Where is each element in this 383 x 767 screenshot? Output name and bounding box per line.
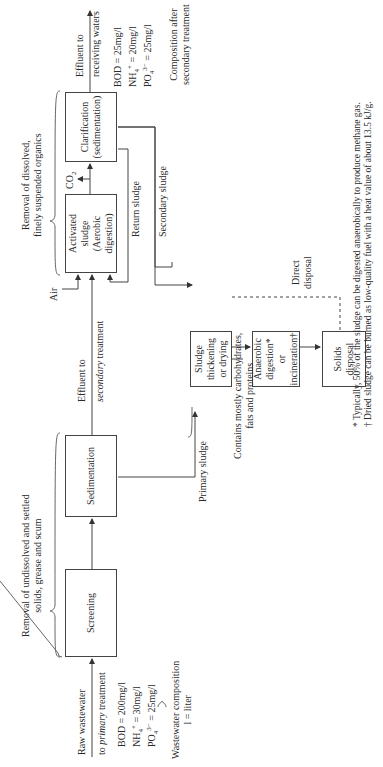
secondary-header-line1: Removal of dissolved, [20, 133, 32, 237]
sludge-note-line1: Contains mostly carbohydrates, [232, 333, 244, 459]
raw-wastewater-label: Raw wastewater [76, 689, 88, 755]
receiving-line1: Effluent to [74, 11, 86, 77]
co2-main: CO [64, 175, 75, 189]
anaerobic-line3: or incineration† [276, 332, 300, 386]
primary-sludge-label: Primary sludge [197, 441, 209, 502]
thickening-line2: thickening [205, 338, 217, 380]
secondary-header-line2: finely suspended organics [32, 133, 44, 237]
t-po4-value: = 25mg/l [142, 24, 153, 63]
footnote-dagger: † Dried sludge can be burned as low-qual… [363, 101, 374, 427]
treated-caption-line1: Composition after [168, 4, 180, 85]
treated-po4: PO43− = 25mg/l [142, 24, 154, 87]
co2-subscript: 2 [70, 172, 78, 176]
raw-nh4: NH4+ = 30mg/l [131, 682, 143, 747]
sedimentation-box: Sedimentation [65, 435, 117, 517]
return-sludge-label: Return sludge [130, 181, 142, 237]
t-nh4-value: = 20mg/l [127, 26, 138, 65]
t-po4-sup: 3− [141, 63, 149, 70]
po4-sup: 3− [145, 723, 153, 730]
raw-caption-line1: Wastewater composition [170, 661, 182, 759]
screening-box: Screening [65, 569, 117, 657]
clarification-line1: Clarification [79, 96, 91, 159]
sedimentation-label: Sedimentation [85, 447, 97, 505]
activated-sludge-line3: (Aerobic digestion) [91, 195, 115, 272]
raw-po4: PO43− = 25mg/l [146, 682, 158, 747]
treated-bod: BOD = 25mg/l [112, 24, 124, 87]
raw-caption-line2: l = liter [182, 661, 194, 759]
thickening-line3: or drying [217, 338, 229, 380]
clarification-line2: (sedimentation) [91, 96, 103, 159]
co2-label: CO2 [64, 172, 76, 189]
treated-composition-caption: Composition after secondary treatment [168, 4, 192, 85]
to-prefix: to [96, 745, 107, 755]
sludge-note-line2: fats and proteins [244, 333, 256, 459]
po4-main: PO [146, 734, 157, 747]
sludge-composition-note: Contains mostly carbohydrates, fats and … [232, 333, 256, 459]
t-nh4-main: NH [127, 73, 138, 87]
thickening-line1: Sludge [193, 338, 205, 380]
anaerobic-digestion-box: Anaerobic digestion* or incineration† [252, 331, 300, 387]
secondary-stage-header: Removal of dissolved, finely suspended o… [20, 133, 44, 237]
treated-nh4: NH4+ = 20mg/l [127, 24, 139, 87]
solids-line1: Solids [332, 343, 344, 376]
anaerobic-line2: digestion* [264, 332, 276, 386]
effluent-line1: Effluent to [76, 321, 88, 402]
secondary-sludge-label: Secondary sludge [157, 166, 169, 237]
effluent-receiving-label: Effluent to receiving waters [74, 11, 102, 77]
nh4-sup: + [130, 725, 138, 729]
screening-label: Screening [85, 593, 97, 633]
treatment-suffix: treatment [96, 672, 107, 712]
direct-line2: disposal [302, 256, 314, 289]
raw-composition-block: BOD = 200mg/l NH4+ = 30mg/l PO43− = 25mg… [116, 682, 158, 747]
primary-header-line2: solids, grease and scum [32, 494, 44, 637]
air-label: Air [48, 288, 60, 301]
receiving-line2: receiving waters [90, 11, 102, 77]
po4-sub: 4 [152, 731, 160, 735]
nh4-main: NH [131, 733, 142, 747]
primary-italic: primary [96, 712, 107, 744]
footnote-asterisk: * Typically, 50% of the sludge can be di… [352, 101, 363, 427]
t-nh4-sup: + [126, 65, 134, 69]
wastewater-treatment-diagram: Removal of undissolved and settled solid… [0, 0, 383, 767]
secondary-italic: secondary [94, 361, 105, 402]
po4-value: = 25mg/l [146, 684, 157, 723]
direct-disposal-label: Direct disposal [290, 256, 314, 289]
t-po4-sub: 4 [148, 71, 156, 75]
activated-sludge-line2: sludge [79, 195, 91, 272]
treatment-suffix-2: treatment [94, 321, 105, 361]
treated-composition-block: BOD = 25mg/l NH4+ = 20mg/l PO43− = 25mg/… [112, 24, 154, 87]
primary-header-line1: Removal of undissolved and settled [20, 494, 32, 637]
activated-sludge-line1: Activated [67, 195, 79, 272]
primary-stage-header: Removal of undissolved and settled solid… [20, 494, 44, 637]
footnotes: * Typically, 50% of the sludge can be di… [352, 101, 374, 427]
nh4-value: = 30mg/l [131, 686, 142, 725]
activated-sludge-box: Activated sludge (Aerobic digestion) [65, 194, 117, 273]
sludge-thickening-box: Sludge thickening or drying [190, 331, 232, 387]
raw-composition-caption: Wastewater composition l = liter [170, 661, 194, 759]
t-po4-main: PO [142, 74, 153, 87]
clarification-box: Clarification (sedimentation) [65, 92, 117, 162]
treated-caption-line2: secondary treatment [180, 4, 192, 85]
raw-bod: BOD = 200mg/l [116, 682, 128, 747]
direct-line1: Direct [290, 256, 302, 289]
effluent-to-secondary-label: Effluent to secondary treatment [76, 321, 106, 402]
to-primary-treatment-label: to primary treatment [96, 672, 108, 755]
